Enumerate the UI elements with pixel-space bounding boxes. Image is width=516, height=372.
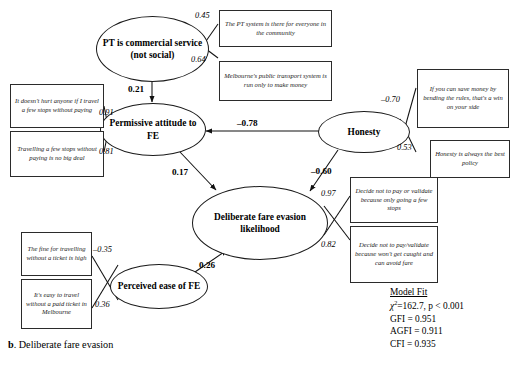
- loading-easy-to-travel: 0.36: [95, 300, 110, 309]
- latent-label-perceived-ease: Perceived ease of FE: [114, 280, 204, 292]
- loading-melb-money: 0.64: [191, 55, 206, 64]
- coefficient-ease-to-deliberate: 0.26: [199, 260, 215, 270]
- latent-node-pt-commercial[interactable]: PT is commercial service (not social): [96, 16, 209, 82]
- model-fit-gfi: GFI = 0.951: [390, 313, 464, 326]
- model-fit-agfi: AGFI = 0.911: [390, 325, 464, 338]
- coefficient-honesty-to-deliberate: –0.60: [311, 166, 332, 176]
- sem-path-diagram: PT is commercial service (not social) Pe…: [0, 0, 516, 372]
- loading-no-big-deal: 0.81: [99, 147, 114, 156]
- observed-box-wont-get-caught[interactable]: Decide not to pay/validate because won't…: [350, 226, 438, 283]
- observed-box-few-stops[interactable]: Decide not to pay or validate because on…: [350, 177, 438, 223]
- latent-label-permissive-attitude: Permissive attitude to FE: [101, 117, 205, 141]
- observed-text-doesnt-hurt: It doesn't hurt anyone if I travel a few…: [14, 97, 100, 114]
- figure-caption: b. Deliberate fare evasion: [8, 339, 113, 350]
- latent-node-perceived-ease[interactable]: Perceived ease of FE: [110, 264, 208, 309]
- loading-line-wont-get-caught: [324, 196, 350, 235]
- loading-doesnt-hurt: 0.91: [99, 108, 114, 117]
- observed-box-melb-money[interactable]: Melbourne's public transport system is r…: [219, 61, 332, 101]
- caption-text: . Deliberate fare evasion: [14, 339, 114, 350]
- latent-node-permissive-attitude[interactable]: Permissive attitude to FE: [100, 103, 206, 156]
- observed-text-bending-rules: If you can save money by bending the rul…: [421, 85, 505, 111]
- observed-box-fine-is-high[interactable]: The fine for travelling without a ticket…: [21, 232, 92, 276]
- observed-text-fine-is-high: The fine for travelling without a ticket…: [25, 245, 88, 262]
- observed-box-doesnt-hurt[interactable]: It doesn't hurt anyone if I travel a few…: [10, 84, 104, 128]
- loading-fine-is-high: –0.35: [93, 245, 112, 254]
- observed-box-bending-rules[interactable]: If you can save money by bending the rul…: [417, 69, 509, 128]
- loading-best-policy: 0.53: [397, 143, 412, 152]
- observed-box-no-big-deal[interactable]: Travelling a few stops without paying is…: [10, 131, 104, 177]
- loading-few-stops: 0.97: [321, 189, 336, 198]
- observed-text-easy-to-travel: It's easy to travel without a paid ticke…: [25, 291, 88, 317]
- observed-box-best-policy[interactable]: Honesty is always the best policy: [430, 140, 510, 178]
- observed-box-easy-to-travel[interactable]: It's easy to travel without a paid ticke…: [21, 279, 92, 329]
- observed-text-melb-money: Melbourne's public transport system is r…: [223, 72, 328, 89]
- model-fit-chi-square: χ2=162.7, p < 0.001: [390, 299, 464, 313]
- chi-square-value: =162.7, p < 0.001: [397, 301, 464, 311]
- coefficient-permissive-to-deliberate: 0.17: [172, 167, 188, 177]
- observed-text-pt-community: The PT system is there for everyone in t…: [223, 20, 328, 37]
- loading-pt-community: 0.45: [195, 11, 210, 20]
- latent-node-deliberate-fe[interactable]: Deliberate fare evasion likelihood: [192, 186, 328, 260]
- coefficient-pt-to-permissive: 0.21: [128, 84, 144, 94]
- latent-label-honesty: Honesty: [344, 126, 385, 138]
- loading-bending-rules: –0.70: [381, 95, 400, 104]
- observed-box-pt-community[interactable]: The PT system is there for everyone in t…: [219, 10, 332, 47]
- coefficient-honesty-to-permissive: –0.78: [237, 118, 258, 128]
- observed-text-few-stops: Decide not to pay or validate because on…: [354, 187, 434, 213]
- latent-label-deliberate-fe: Deliberate fare evasion likelihood: [193, 211, 327, 235]
- model-fit-cfi: CFI = 0.935: [390, 338, 464, 351]
- model-fit-title: Model Fit: [390, 286, 464, 299]
- observed-text-wont-get-caught: Decide not to pay/validate because won't…: [354, 241, 434, 267]
- observed-text-best-policy: Honesty is always the best policy: [434, 150, 506, 167]
- observed-text-no-big-deal: Travelling a few stops without paying is…: [14, 145, 100, 162]
- model-fit-block: Model Fit χ2=162.7, p < 0.001 GFI = 0.95…: [390, 286, 464, 350]
- loading-wont-get-caught: 0.82: [321, 240, 336, 249]
